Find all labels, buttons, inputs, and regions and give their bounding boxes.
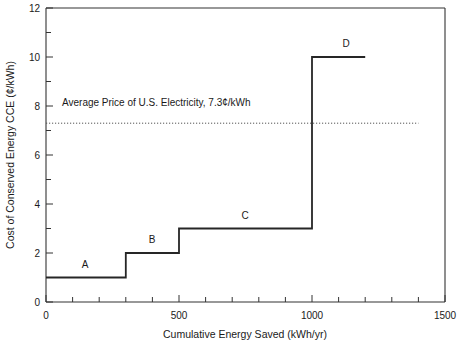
step-label-b: B: [149, 234, 156, 245]
step-label-a: A: [82, 259, 89, 270]
y-axis-title: Cost of Conserved Energy CCE (¢/kWh): [4, 61, 16, 249]
step-label-c: C: [241, 210, 248, 221]
y-tick-label-8: 8: [34, 101, 40, 112]
average-price-annotation: Average Price of U.S. Electricity, 7.3¢/…: [62, 97, 251, 108]
y-tick-label-10: 10: [29, 52, 41, 63]
y-tick-label-12: 12: [29, 3, 41, 14]
y-tick-label-6: 6: [34, 150, 40, 161]
chart-background: [0, 0, 461, 349]
chart-page: 0 2 4 6 8 10 12: [0, 0, 461, 349]
x-tick-label-1000: 1000: [301, 310, 324, 321]
x-tick-label-0: 0: [43, 310, 49, 321]
cce-supply-curve-chart: 0 2 4 6 8 10 12: [0, 0, 461, 349]
x-axis-title: Cumulative Energy Saved (kWh/yr): [163, 328, 327, 340]
y-tick-label-2: 2: [34, 248, 40, 259]
x-tick-label-1500: 1500: [434, 310, 457, 321]
step-label-d: D: [342, 38, 349, 49]
y-tick-label-4: 4: [34, 199, 40, 210]
x-tick-label-500: 500: [171, 310, 188, 321]
y-tick-label-0: 0: [34, 297, 40, 308]
